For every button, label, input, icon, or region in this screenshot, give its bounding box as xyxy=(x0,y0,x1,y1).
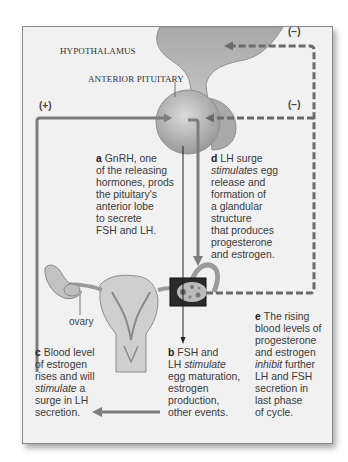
caption-e-line: The rising xyxy=(264,311,310,322)
caption-c-line: Blood level xyxy=(44,347,95,358)
fsh-lh-arrow xyxy=(181,146,186,344)
caption-e-line: last phase xyxy=(255,395,321,407)
caption-e-line: of cycle. xyxy=(255,407,321,419)
caption-d-line: a glandular xyxy=(211,201,278,213)
caption-b-line: egg maturation, xyxy=(168,371,240,383)
caption-d-line: LH surge xyxy=(220,153,262,164)
negative-sign-mid: (−) xyxy=(288,99,301,110)
caption-b-line: LH xyxy=(168,359,184,370)
anterior-pituitary-label: ANTERIOR PITUITARY xyxy=(88,74,184,84)
caption-e-line: LH and FSH xyxy=(255,371,321,383)
caption-d-line: release and xyxy=(211,177,278,189)
caption-c-line: rises and will xyxy=(35,371,95,383)
caption-d-line: that produces xyxy=(211,225,278,237)
caption-c-line: a xyxy=(77,383,86,394)
caption-a-line: to secrete xyxy=(96,213,174,225)
caption-e-line: blood levels of xyxy=(255,323,321,335)
caption-b-line: other events. xyxy=(168,407,240,419)
caption-e: eThe rising blood levels of progesterone… xyxy=(255,311,321,419)
caption-a-line: FSH and LH. xyxy=(96,225,174,237)
caption-a-line: of the releasing xyxy=(96,165,174,177)
caption-c-emphasis: stimulate xyxy=(35,383,77,394)
caption-a-key: a xyxy=(96,153,102,164)
caption-e-key: e xyxy=(255,311,261,322)
caption-c-line: of estrogen xyxy=(35,359,95,371)
hypothalamus-label: HYPOTHALAMUS xyxy=(60,46,136,56)
caption-e-line: progesterone xyxy=(255,335,321,347)
ovary-label: ovary xyxy=(69,316,93,327)
caption-e-line: secretion in xyxy=(255,383,321,395)
caption-b-emphasis: stimulate xyxy=(184,359,226,370)
caption-d-line: structure xyxy=(211,213,278,225)
caption-a-line: anterior lobe xyxy=(96,201,174,213)
caption-b-line: FSH and xyxy=(177,347,218,358)
caption-e-line: further xyxy=(282,359,315,370)
caption-c-key: c xyxy=(35,347,41,358)
caption-e-line: and estrogen xyxy=(255,347,321,359)
caption-d: dLH surge stimulates egg release and for… xyxy=(211,153,278,261)
caption-b-key: b xyxy=(168,347,174,358)
caption-c-line: surge in LH xyxy=(35,395,95,407)
caption-d-line: and estrogen. xyxy=(211,249,278,261)
negative-sign-top: (−) xyxy=(288,26,301,37)
caption-d-emphasis: stimulates xyxy=(211,165,258,176)
caption-d-line: egg xyxy=(258,165,278,176)
caption-b-line: estrogen xyxy=(168,383,240,395)
caption-d-line: formation of xyxy=(211,189,278,201)
caption-a-line: hormones, prods xyxy=(96,177,174,189)
caption-a-line: the pituitary's xyxy=(96,189,174,201)
caption-a-line: GnRH, one xyxy=(105,153,157,164)
caption-d-key: d xyxy=(211,153,217,164)
caption-c-line: secretion. xyxy=(35,407,95,419)
hypothalamus-shape xyxy=(157,27,283,102)
caption-a: aGnRH, one of the releasing hormones, pr… xyxy=(96,153,174,237)
estrogen-arrow xyxy=(92,407,160,417)
caption-d-line: progesterone xyxy=(211,237,278,249)
caption-b-line: production, xyxy=(168,395,240,407)
caption-c: cBlood level of estrogen rises and will … xyxy=(35,347,95,419)
caption-b: bFSH and LH stimulate egg maturation, es… xyxy=(168,347,240,419)
ovary-inset xyxy=(170,278,207,306)
positive-sign: (+) xyxy=(39,100,52,111)
caption-e-emphasis: inhibit xyxy=(255,359,282,370)
